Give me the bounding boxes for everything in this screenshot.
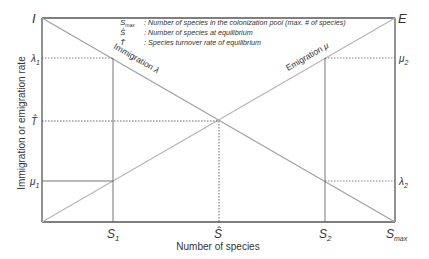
legend-text-s-hat: : Number of species at equilibrium [144,28,253,37]
s2-guides [325,58,395,222]
tick-s2: S2 [319,227,332,243]
corner-label-e: E [398,11,407,26]
svg-text:Emigration μ: Emigration μ [284,40,331,73]
s1-guides [42,58,113,222]
tick-smax: Smax [386,227,408,242]
tick-s1: S1 [107,227,119,243]
y-axis-title: Immigration or emigration rate [16,56,27,190]
tick-s-hat: Ŝ [214,226,222,241]
legend-symbol-s-hat: Ŝ [120,28,126,37]
tick-mu2: μ2 [398,53,408,66]
legend: Smax : Number of species in the coloniza… [120,18,346,47]
tick-lambda1: λ1 [30,53,40,66]
tick-mu1: μ1 [29,176,39,189]
corner-label-i: I [32,11,36,26]
tick-lambda2: λ2 [398,176,408,189]
legend-text-t-hat: : Species turnover rate of equilibrium [144,38,261,47]
island-biogeography-diagram: I E Immigration λ Emigration μ λ1 T̂ μ1 … [0,0,429,259]
tick-t-hat: T̂ [31,114,38,127]
legend-text-smax: : Number of species in the colonization … [144,18,346,27]
emigration-label: Emigration μ [284,40,331,73]
legend-symbol-smax: Smax [120,18,135,28]
x-axis-title: Number of species [176,241,259,252]
